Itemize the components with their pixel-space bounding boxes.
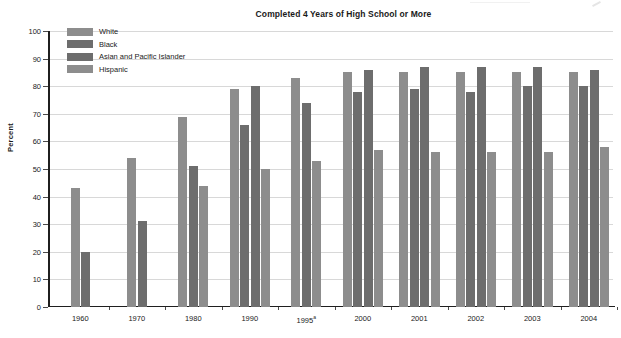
x-tick-label: 1990 [241,314,258,323]
x-tick-mark [278,307,279,310]
x-tick-label: 1960 [72,314,89,323]
x-tick-label: 2001 [411,314,428,323]
scan-artifact [592,1,601,7]
x-tick-mark [109,307,110,310]
y-tick-label: 20 [33,247,41,256]
x-tick-label: 2003 [524,314,541,323]
chart-title: Completed 4 Years of High School or More [0,9,621,19]
legend-item-hispanic: Hispanic [67,65,185,74]
x-tick-mark [561,307,562,310]
legend-swatch-icon [67,53,93,61]
y-tick-label: 70 [33,109,41,118]
x-tick-mark [165,307,166,310]
y-tick-label: 60 [33,137,41,146]
y-tick-label: 50 [33,165,41,174]
legend-item-label: Hispanic [99,65,128,74]
x-tick-label: 2004 [580,314,597,323]
chart-legend: WhiteBlackAsian and Pacific IslanderHisp… [67,27,185,74]
y-tick-label: 10 [33,275,41,284]
x-tick-mark [504,307,505,310]
legend-item-label: Black [99,40,117,49]
legend-item-label: Asian and Pacific Islander [99,52,185,61]
bar [579,86,588,307]
y-tick-label: 100 [28,27,41,36]
y-tick-label: 40 [33,192,41,201]
x-tick-label: 2002 [467,314,484,323]
x-tick-label: 1995a [297,314,316,325]
y-tick-label: 80 [33,82,41,91]
bar [600,147,609,307]
x-tick-label: 2000 [354,314,371,323]
x-tick-label: 1980 [185,314,202,323]
legend-swatch-icon [67,28,93,36]
bar [569,72,578,307]
x-tick-mark [448,307,449,310]
legend-swatch-icon [67,40,93,48]
x-tick-mark [335,307,336,310]
y-tick-label: 90 [33,54,41,63]
scan-artifact [470,2,530,3]
legend-item-white: White [67,27,185,36]
bar [590,70,599,307]
y-tick-label: 0 [37,303,41,312]
x-tick-mark [617,307,618,310]
legend-item-black: Black [67,40,185,49]
chart-figure: Completed 4 Years of High School or More… [0,0,621,338]
y-tick-label: 30 [33,220,41,229]
x-tick-mark [391,307,392,310]
legend-swatch-icon [67,65,93,73]
legend-item-asian-and-pacific-islander: Asian and Pacific Islander [67,52,185,61]
x-tick-mark [222,307,223,310]
y-axis-title: Percent [6,123,15,152]
legend-item-label: White [99,27,118,36]
y-tick-mark [43,307,48,308]
x-tick-label: 1970 [128,314,145,323]
